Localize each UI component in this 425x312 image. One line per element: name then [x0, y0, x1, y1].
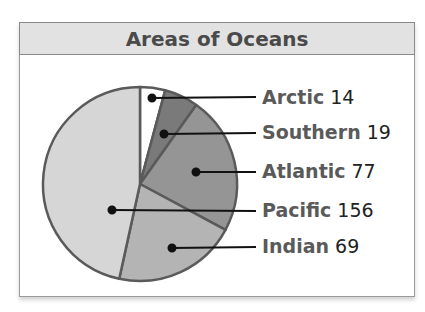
leader-line-indian — [172, 247, 256, 248]
legend-label-arctic: Arctic14 — [262, 86, 354, 108]
leader-line-pacific — [112, 210, 256, 211]
legend-label-southern: Southern19 — [262, 121, 391, 143]
pie-chart — [0, 0, 425, 312]
legend-label-atlantic: Atlantic77 — [262, 160, 376, 182]
pie-slice-pacific — [43, 87, 140, 279]
leader-line-arctic — [152, 97, 256, 98]
legend-label-pacific: Pacific156 — [262, 199, 374, 221]
legend-label-indian: Indian69 — [262, 235, 359, 257]
leader-line-southern — [164, 133, 256, 134]
